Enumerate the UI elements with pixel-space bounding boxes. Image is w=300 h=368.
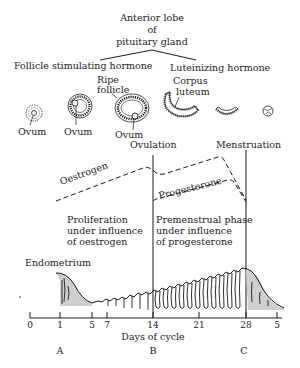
degenerating-corpus-luteum-icon xyxy=(216,107,238,114)
tick-label-1: 1 xyxy=(54,320,66,331)
tick-label-21: 21 xyxy=(191,320,207,331)
tick-label-0: 0 xyxy=(24,320,36,331)
tick-label-next-5: 5 xyxy=(271,320,283,331)
marker-a: A xyxy=(54,345,66,356)
days-axis xyxy=(30,312,282,318)
pituitary-branch-lines xyxy=(100,50,196,60)
premenstrual-line1: Premenstrual phase xyxy=(156,214,253,225)
proliferation-line3: of oestrogen xyxy=(67,236,127,247)
ripe-follicle-label-line2: follicle xyxy=(97,84,129,95)
ripe-follicle-icon xyxy=(112,94,149,130)
marker-c: C xyxy=(238,345,250,356)
endometrium-graphic xyxy=(19,268,284,310)
ovulation-label: Ovulation xyxy=(130,139,177,150)
pituitary-title-line1: Anterior lobe xyxy=(100,12,204,23)
tick-label-7: 7 xyxy=(101,320,113,331)
proliferation-line2: under influence xyxy=(67,225,143,236)
fsh-label: Follicle stimulating hormone xyxy=(14,60,152,71)
pituitary-title-line2: of xyxy=(100,24,204,35)
ovum-label-1: Ovum xyxy=(18,126,46,137)
premenstrual-line2: under influence xyxy=(156,225,232,236)
ovum-label-2: Ovum xyxy=(64,126,92,137)
primary-follicle-icon xyxy=(26,105,42,125)
axis-label: Days of cycle xyxy=(113,331,193,342)
endometrium-label: Endometrium xyxy=(25,257,91,268)
pituitary-title-line3: pituitary gland xyxy=(100,36,204,47)
tick-label-5: 5 xyxy=(86,320,98,331)
tick-label-14: 14 xyxy=(145,320,161,331)
proliferation-line1: Proliferation xyxy=(67,214,128,225)
corpus-luteum-label-line2: luteum xyxy=(176,86,210,97)
corpus-luteum-label-line1: Corpus xyxy=(173,75,208,86)
marker-b: B xyxy=(147,345,159,356)
diagram-graphics xyxy=(0,0,300,368)
corpus-albicans-icon xyxy=(263,106,273,116)
tick-label-28: 28 xyxy=(238,320,254,331)
growing-follicle-icon xyxy=(68,94,92,125)
menstruation-label: Menstruation xyxy=(216,139,281,150)
lh-label: Luteinizing hormone xyxy=(170,62,270,73)
premenstrual-line3: of progesterone xyxy=(156,236,233,247)
